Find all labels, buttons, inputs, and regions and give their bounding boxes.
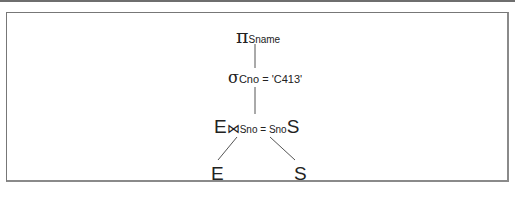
join-node: E⋈Sno = SnoS [214,117,299,136]
leaf-relation-e: E [211,164,224,183]
bowtie-join-icon: ⋈ [227,121,240,136]
edge-join-right [270,137,295,160]
sigma-symbol: σ [228,68,239,87]
edge-join-left [218,137,237,160]
join-condition: Sno = Sno [240,124,287,135]
projection-attribute: Sname [249,34,281,45]
selection-condition: Cno = 'C413' [239,73,302,85]
join-left-relation: E [214,116,227,137]
pi-symbol: π [236,25,249,47]
selection-node: σCno = 'C413' [228,70,302,86]
join-right-relation: S [287,116,300,137]
leaf-relation-s: S [294,164,307,183]
projection-node: πSname [236,27,280,46]
